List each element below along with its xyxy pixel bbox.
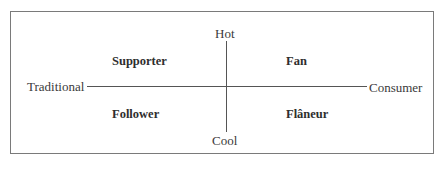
axis-label-cool: Cool — [212, 134, 237, 147]
axis-label-hot: Hot — [215, 27, 235, 40]
vertical-axis-line — [226, 41, 227, 132]
quadrant-follower: Follower — [112, 108, 159, 121]
quadrant-fan: Fan — [286, 55, 307, 68]
axis-label-traditional: Traditional — [27, 80, 84, 93]
axis-label-consumer: Consumer — [369, 81, 422, 94]
quadrant-flaneur: Flâneur — [286, 108, 328, 121]
quadrant-supporter: Supporter — [112, 55, 167, 68]
horizontal-axis-line — [87, 86, 367, 87]
